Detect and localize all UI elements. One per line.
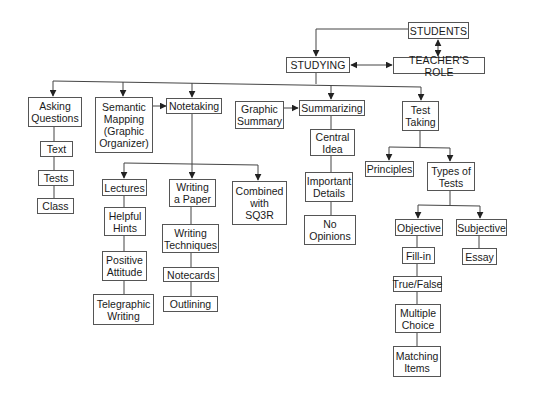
edge-types-bus xyxy=(418,205,480,206)
node-essay: Essay xyxy=(462,248,497,265)
node-notetaking: Notetaking xyxy=(166,98,222,114)
edge-testtaking-bus xyxy=(389,147,450,148)
node-class: Class xyxy=(37,198,74,214)
node-studying: STUDYING xyxy=(286,57,350,73)
edge-notetaking-bus xyxy=(124,163,258,165)
node-objective: Objective xyxy=(395,219,443,236)
node-true-false: True/False xyxy=(393,276,442,292)
node-matching-items: Matching Items xyxy=(393,346,441,377)
node-summarizing: Summarizing xyxy=(299,100,365,116)
node-writing-techniques: Writing Techniques xyxy=(162,224,219,253)
node-notecards: Notecards xyxy=(163,267,219,282)
node-multiple-choice: Multiple Choice xyxy=(395,304,441,333)
node-text: Text xyxy=(40,141,73,157)
node-combined-sq3r: Combined with SQ3R xyxy=(232,181,287,225)
node-positive-attitude: Positive Attitude xyxy=(102,251,147,281)
node-semantic-mapping: Semantic Mapping (Graphic Organizer) xyxy=(95,97,153,153)
node-helpful-hints: Helpful Hints xyxy=(104,207,146,236)
concept-map: STUDENTS TEACHER'S ROLE STUDYING Asking … xyxy=(0,0,535,397)
node-important-details: Important Details xyxy=(305,172,353,202)
node-lectures: Lectures xyxy=(102,179,147,196)
node-no-opinions: No Opinions xyxy=(304,215,356,245)
edge-studying-bus xyxy=(53,81,421,87)
node-principles: Principles xyxy=(365,161,414,177)
node-students: STUDENTS xyxy=(408,22,469,39)
node-graphic-summary: Graphic Summary xyxy=(235,101,284,129)
edge-students-studying xyxy=(316,29,408,56)
node-telegraphic-writing: Telegraphic Writing xyxy=(93,294,154,325)
node-types-of-tests: Types of Tests xyxy=(427,162,475,191)
node-tests: Tests xyxy=(38,170,74,186)
node-central-idea: Central Idea xyxy=(310,129,355,156)
node-test-taking: Test Taking xyxy=(402,101,439,131)
node-outlining: Outlining xyxy=(163,296,218,312)
node-subjective: Subjective xyxy=(456,219,507,236)
node-writing-a-paper: Writing a Paper xyxy=(169,179,216,207)
node-teachers-role: TEACHER'S ROLE xyxy=(393,57,485,74)
node-fill-in: Fill-in xyxy=(402,247,435,264)
node-asking-questions: Asking Questions xyxy=(28,97,82,127)
